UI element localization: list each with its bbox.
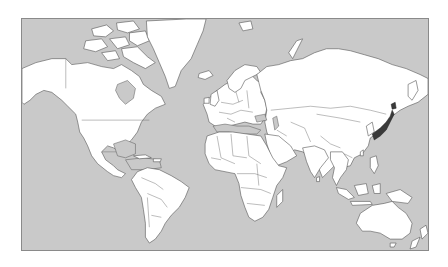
map-title: World map (Mercator projection) — [0, 0, 1, 1]
sri-lanka — [317, 177, 320, 182]
world-map — [21, 18, 429, 251]
world-map-svg — [22, 19, 428, 250]
ireland — [204, 97, 209, 103]
